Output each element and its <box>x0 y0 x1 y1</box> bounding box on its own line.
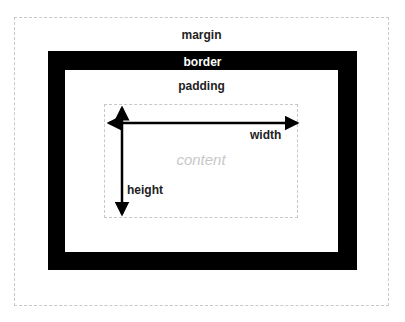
height-label: height <box>127 183 163 197</box>
dimension-arrows <box>0 0 405 322</box>
width-label: width <box>250 128 281 142</box>
